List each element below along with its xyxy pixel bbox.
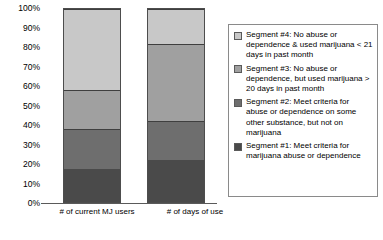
legend-item[interactable]: Segment #1: Meet criteria for marijuana …: [234, 141, 373, 161]
stacked-bar-chart: 0%10%20%30%40%50%60%70%80%90%100% # of c…: [0, 0, 383, 240]
y-axis-tick-label: 40%: [0, 121, 40, 130]
legend-swatch-icon: [234, 32, 242, 40]
x-axis-label-0: # of current MJ users: [41, 208, 153, 216]
bar-segment[interactable]: [148, 44, 204, 121]
y-axis: 0%10%20%30%40%50%60%70%80%90%100%: [0, 8, 40, 203]
bar-segment[interactable]: [148, 9, 204, 44]
bars-layer: [41, 8, 217, 203]
legend-item-label: Segment #3: No abuse or dependence, but …: [246, 64, 373, 95]
bar-current-mj-users[interactable]: [63, 8, 121, 203]
legend-item-label: Segment #2: Meet criteria for abuse or d…: [246, 97, 373, 138]
plot-area: 0%10%20%30%40%50%60%70%80%90%100% # of c…: [0, 0, 222, 240]
y-axis-tick-label: 30%: [0, 140, 40, 149]
y-axis-tick-label: 10%: [0, 179, 40, 188]
bar-segment[interactable]: [64, 129, 120, 170]
y-axis-tick-label: 90%: [0, 23, 40, 32]
y-axis-tick-label: 60%: [0, 82, 40, 91]
legend-swatch-icon: [234, 99, 242, 107]
y-axis-tick-label: 20%: [0, 160, 40, 169]
chart-legend: Segment #4: No abuse or dependence & use…: [228, 24, 378, 197]
legend-item[interactable]: Segment #3: No abuse or dependence, but …: [234, 64, 373, 95]
bar-segment[interactable]: [64, 90, 120, 129]
legend-swatch-icon: [234, 143, 242, 151]
y-axis-tick-label: 0%: [0, 199, 40, 208]
legend-item[interactable]: Segment #4: No abuse or dependence & use…: [234, 30, 373, 61]
x-axis-label-1: # of days of use: [147, 208, 243, 216]
bar-segment[interactable]: [64, 169, 120, 202]
legend-item[interactable]: Segment #2: Meet criteria for abuse or d…: [234, 97, 373, 138]
bar-segment[interactable]: [148, 160, 204, 202]
y-axis-tick-label: 80%: [0, 43, 40, 52]
bar-days-of-use[interactable]: [147, 8, 205, 203]
legend-item-label: Segment #4: No abuse or dependence & use…: [246, 30, 373, 61]
y-axis-tick-label: 50%: [0, 101, 40, 110]
y-axis-tick-label: 70%: [0, 62, 40, 71]
bar-segment[interactable]: [148, 121, 204, 160]
legend-swatch-icon: [234, 65, 242, 73]
y-axis-tick-label: 100%: [0, 4, 40, 13]
bar-segment[interactable]: [64, 9, 120, 90]
legend-item-label: Segment #1: Meet criteria for marijuana …: [246, 141, 373, 161]
